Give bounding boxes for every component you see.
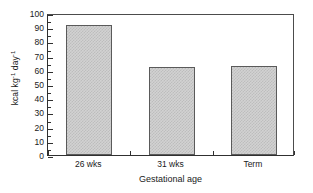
y-tick-label: 50 <box>35 81 44 90</box>
y-tick-mark <box>48 58 53 59</box>
x-tick-mark <box>213 151 214 155</box>
y-tick-label: 10 <box>35 137 44 146</box>
y-tick-mark <box>48 72 53 73</box>
y-axis-title-text: kcal kg-1 day-1 <box>10 51 20 106</box>
y-tick-mark <box>48 86 53 87</box>
y-tick-label: 30 <box>35 109 44 118</box>
y-tick-mark <box>48 29 53 30</box>
y-axis-title-base1: kcal kg <box>10 78 20 105</box>
y-tick-label: 100 <box>30 10 44 19</box>
bar <box>149 67 195 155</box>
x-axis-title: Gestational age <box>47 174 294 184</box>
y-tick-label: 60 <box>35 66 44 75</box>
y-minor-tick-mark <box>48 93 51 94</box>
y-tick-mark <box>48 114 53 115</box>
plot-inner <box>48 15 293 155</box>
y-minor-tick-mark <box>48 65 51 66</box>
x-tick-mark <box>294 151 295 155</box>
y-minor-tick-mark <box>48 22 51 23</box>
bar <box>231 66 277 155</box>
y-tick-label: 90 <box>35 24 44 33</box>
y-tick-label: 70 <box>35 52 44 61</box>
x-tick-label: 31 wks <box>157 159 183 170</box>
plot-area <box>47 14 294 156</box>
y-tick-label: 20 <box>35 123 44 132</box>
x-tick-mark <box>130 151 131 155</box>
y-minor-tick-mark <box>48 122 51 123</box>
x-axis-tick-labels: 26 wks31 wksTerm <box>47 159 294 173</box>
y-tick-mark <box>48 157 53 158</box>
y-minor-tick-mark <box>48 79 51 80</box>
y-minor-tick-mark <box>48 51 51 52</box>
x-tick-label: Term <box>243 159 262 170</box>
y-tick-label: 40 <box>35 95 44 104</box>
y-tick-label: 80 <box>35 38 44 47</box>
y-minor-tick-mark <box>48 36 51 37</box>
y-axis-tick-labels: 0102030405060708090100 <box>22 14 44 156</box>
y-axis-title-sup1: -1 <box>9 73 15 79</box>
y-axis-title-sup2: -1 <box>9 51 15 57</box>
x-tick-mark <box>48 151 49 155</box>
y-tick-mark <box>48 100 53 101</box>
y-axis-title: kcal kg-1 day-1 <box>8 0 22 156</box>
y-axis-title-base2: day <box>10 56 20 72</box>
bar-chart-figure: kcal kg-1 day-1 0102030405060708090100 2… <box>0 0 313 193</box>
y-tick-mark <box>48 15 53 16</box>
y-tick-mark <box>48 43 53 44</box>
y-minor-tick-mark <box>48 107 51 108</box>
y-tick-mark <box>48 129 53 130</box>
x-tick-label: 26 wks <box>75 159 101 170</box>
bar <box>66 25 112 155</box>
y-minor-tick-mark <box>48 136 51 137</box>
y-tick-label: 0 <box>39 152 44 161</box>
y-tick-mark <box>48 143 53 144</box>
